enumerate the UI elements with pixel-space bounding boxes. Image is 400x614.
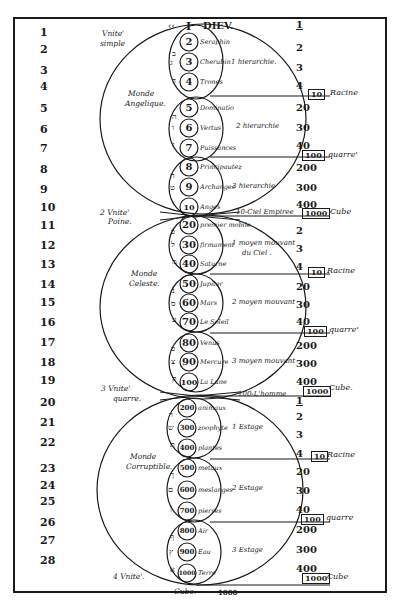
row-number: 7 [40,143,48,154]
power-label: quarre' [328,151,358,159]
hebrew-letter: נ [172,287,175,295]
right-value: 30 [296,300,310,310]
row-number: 1 [40,27,48,38]
unity-label-2: 2 Vnite' [100,209,129,217]
order-number: 5 [178,97,200,119]
order-number: 70 [178,311,200,333]
hierarchy-label: 2 moyen mouvant [232,299,295,306]
hebrew-letter: ט [170,184,175,192]
right-value: 200 [296,163,317,173]
order-name: plantes [198,445,222,452]
row-number: 24 [40,480,55,491]
row-number: 21 [40,417,55,428]
row-number: 18 [40,357,55,368]
order-name: Cherubin [200,59,231,66]
row-number: 5 [40,103,48,114]
row-number: 16 [40,317,55,328]
hebrew-letter: י [172,200,174,208]
row-number: 12 [40,240,55,251]
row-number: 22 [40,437,55,448]
row-number: 23 [40,463,55,474]
order-name: Anges [200,204,220,211]
order-number: 900 [176,541,198,563]
hebrew-letter: ף [170,533,174,541]
right-value: 20 [296,103,310,113]
order-number: 500 [176,457,198,479]
row-number: 27 [40,535,55,546]
power-label: Cube. [329,384,353,392]
power-label: Racine [330,89,358,97]
power-box: 10 [308,267,325,278]
hebrew-letter: ה [172,113,177,121]
order-number: 1000 [176,562,198,584]
order-name: La Lune [200,379,227,386]
order-name: Mars [200,300,217,307]
cube-label: Cube. [174,588,196,596]
hebrew-letter: ש [168,424,174,432]
hebrew-letter: ר [169,411,173,419]
power-box: 10 [311,451,328,462]
right-value: 4 [296,262,303,272]
unity-label-1: Vnite' [102,30,124,38]
power-box: 100 [304,326,327,337]
right-value: 200 [296,525,317,535]
hierarchy-label: 1 hierarchie. [231,59,276,66]
row-number: 9 [40,184,48,195]
power-box: 100 [302,150,325,161]
hebrew-letter: ו [172,124,174,132]
row-number: 8 [40,164,48,175]
order-name: Principautez [200,164,242,171]
order-name: Eau [198,549,211,556]
world-name-angelique: Monde [128,90,154,98]
order-name: Archanges [200,184,235,191]
order-name: Saturne [200,261,226,268]
row-number: 11 [40,220,55,231]
order-number: 9 [178,176,200,198]
right-value: 20 [296,282,310,292]
power-label: Cube [330,208,351,216]
unity-label-3: 3 Vnite' [101,385,130,393]
right-value: 2 [296,226,303,236]
order-number: 90 [178,351,200,373]
order-name: Trones [200,79,223,86]
hebrew-letter: ץ [169,548,173,556]
right-value: 3 [296,63,303,73]
hierarchy-label: 2 Estage [232,485,263,492]
order-name: Le Soleil [200,319,229,326]
order-number: 400 [176,437,198,459]
hebrew-letter: ן [170,504,172,512]
order-name: firmament [200,242,234,249]
right-value: 2 [296,43,303,53]
hebrew-letter: ס [171,300,176,308]
row-number: 2 [40,44,48,55]
order-number: 2 [178,31,200,53]
right-value: 1 [296,396,303,406]
row-number: 4 [40,81,48,92]
order-number: 100 [178,371,200,393]
header-right-value: 1 [296,20,303,30]
order-number: 3 [178,51,200,73]
world-name-corruptible: Monde [130,453,156,461]
order-name: metaux [198,465,222,472]
order-number: 4 [178,71,200,93]
unity-label-1b: simple [100,40,125,48]
order-name: animaux [198,405,226,412]
row-number: 10 [40,202,55,213]
hebrew-letter: ז [172,141,174,149]
right-value: 200 [296,341,317,351]
order-number: 8 [178,156,200,178]
power-label: Racine [327,451,355,459]
row-number: 14 [40,279,55,290]
right-value: 30 [296,486,310,496]
hebrew-letter: צ [171,358,175,366]
order-name: zoophyte [198,425,228,432]
power-label: Cube [327,573,348,581]
world-name-celeste-2: Celeste. [129,280,160,288]
unity-label-3b: quarre. [113,395,141,403]
unity-label-2b: Pоine. [108,218,132,226]
hierarchy-label: 1 Estage [232,424,263,431]
hebrew-letter: פ [171,345,175,353]
order-name: Vertus [200,125,221,132]
order-name: Seraphin [200,39,230,46]
order-name: Venus [200,340,220,347]
